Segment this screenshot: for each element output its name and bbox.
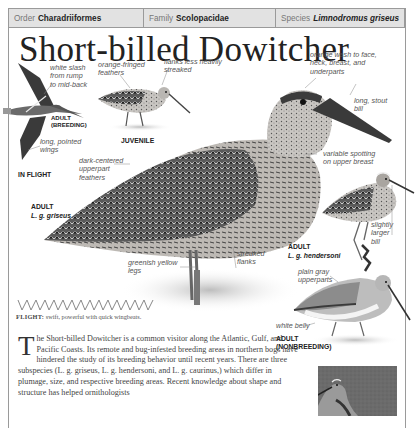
bird-photo [318, 366, 397, 416]
flight-text: swift, powerful with quick wingbeats. [44, 313, 141, 320]
annotation-greenish-legs: greenish yellow legs [128, 259, 178, 276]
label-adult-griseus-subspecies: L. g. griseus [31, 212, 71, 220]
flight-label: FLIGHT: [16, 313, 44, 320]
annotation-white-slash: white slash from rump to mid-back [50, 64, 87, 89]
label-adult-griseus: ADULT L. g. griseus [31, 195, 71, 229]
species-description: The Short-billed Dowitcher is a common v… [18, 334, 301, 398]
description-text: he Short-billed Dowitcher is a common vi… [18, 334, 298, 397]
label-in-flight: IN FLIGHT [18, 171, 51, 179]
label-adult-griseus-title: ADULT [31, 203, 54, 210]
flight-description: FLIGHT: swift, powerful with quick wingb… [16, 313, 141, 320]
label-adult-hendersoni-subspecies: L. g. hendersoni [288, 252, 341, 260]
juvenile-bird-illustration [98, 87, 190, 126]
flight-pattern-zigzag [18, 300, 153, 310]
annotation-dark-centered: dark-centered upperpart feathers [79, 157, 123, 182]
label-juvenile: JUVENILE [121, 137, 154, 145]
annotation-long-stout-bill: long, stout bill [354, 97, 387, 114]
annotation-plain-gray: plain gray upperparts [298, 268, 332, 285]
annotation-orange-fringed: orange-fringed feathers [98, 61, 145, 78]
annotation-streaked-flanks: streaked flanks [237, 250, 265, 267]
annotation-orange-wash: orange wash to face, neck, breast, and u… [310, 51, 377, 76]
annotation-variable-spotting: variable spotting on upper breast [323, 150, 375, 167]
annotation-long-pointed-wings: long, pointed wings [40, 138, 81, 155]
annotation-white-belly: white belly [276, 322, 310, 330]
label-adult-breeding: ADULT (BREEDING) [51, 115, 87, 130]
label-adult-hendersoni-title: ADULT [288, 243, 311, 250]
drop-cap: T [18, 335, 35, 357]
annotation-slightly-larger-bill: slightly larger bill [371, 221, 393, 246]
annotation-flanks-less-streaked: flanks less heavily streaked [164, 58, 222, 75]
label-adult-hendersoni: ADULT L. g. hendersoni [288, 235, 341, 269]
